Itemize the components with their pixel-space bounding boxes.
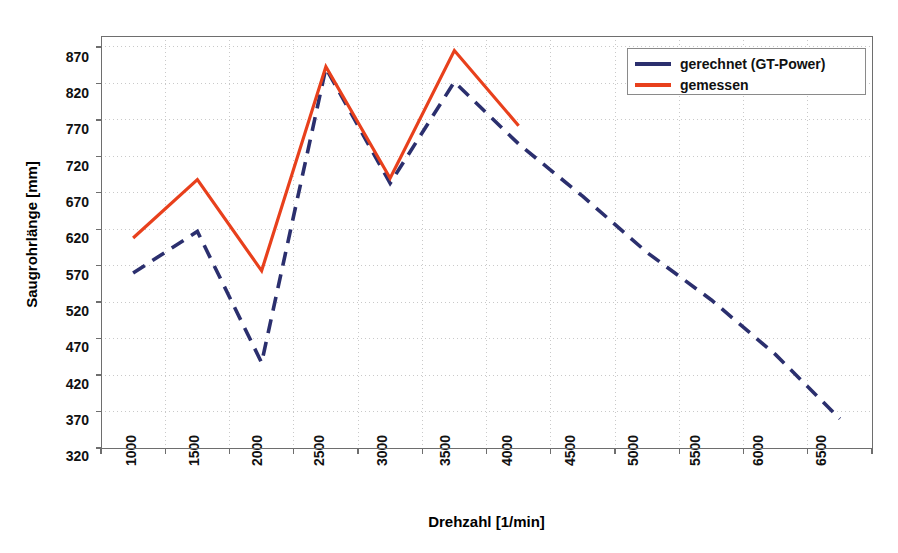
legend-swatch-solid-line-icon — [635, 83, 671, 87]
chart-legend: gerechnet (GT-Power) gemessen — [627, 48, 866, 95]
plot-frame — [101, 36, 872, 448]
legend-entry-gerechnet: gerechnet (GT-Power) — [635, 53, 858, 74]
chart-canvas: Saugrohrlänge [mm] 870 820 770 720 670 6… — [0, 0, 898, 553]
legend-entry-gemessen: gemessen — [635, 74, 858, 95]
legend-label: gemessen — [680, 77, 748, 93]
data-series-layer — [133, 51, 840, 419]
legend-label: gerechnet (GT-Power) — [680, 56, 825, 72]
legend-swatch-dashed-line-icon — [635, 62, 671, 66]
axis-ticks — [96, 47, 872, 454]
gridlines — [101, 36, 872, 448]
